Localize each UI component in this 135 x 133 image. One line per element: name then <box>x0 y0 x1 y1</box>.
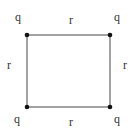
side-label-right: r <box>123 58 127 72</box>
charge-square-diagram: q q q q r r r r <box>0 0 135 133</box>
charge-dot-bottom-left <box>25 105 30 110</box>
square-outline <box>27 35 110 107</box>
charge-dot-top-right <box>108 33 113 38</box>
corner-label-bottom-left: q <box>14 112 20 126</box>
charge-dot-bottom-right <box>108 105 113 110</box>
side-label-top: r <box>69 13 73 27</box>
corner-label-bottom-right: q <box>114 112 120 126</box>
side-label-bottom: r <box>69 115 73 129</box>
charge-dot-top-left <box>25 33 30 38</box>
side-label-left: r <box>7 58 11 72</box>
corner-label-top-left: q <box>15 10 21 24</box>
corner-label-top-right: q <box>114 10 120 24</box>
